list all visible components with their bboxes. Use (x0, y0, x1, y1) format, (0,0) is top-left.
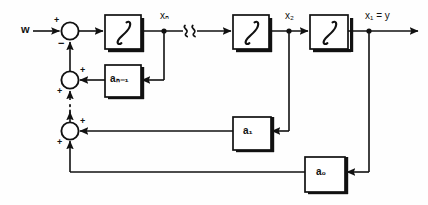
sign-sum3-plus-bottom: + (57, 138, 62, 147)
sign-sum2-plus-bottom: + (57, 87, 62, 96)
summing-junction-lower[interactable] (61, 122, 78, 139)
input-label-w: w (21, 24, 30, 35)
node-label-x2: x₂ (285, 11, 294, 21)
gain-label-a0: a₀ (316, 167, 326, 177)
diagram-vector-layer (0, 0, 428, 205)
gain-label-a1: a₁ (243, 126, 253, 136)
sign-sum1-minus: − (58, 38, 64, 49)
integrator-block-n[interactable] (105, 15, 141, 49)
integral-glyphs (118, 22, 337, 44)
sign-sum1-plus: + (54, 16, 59, 25)
output-label-x1-y: x₁ = y (365, 11, 390, 21)
block-diagram-canvas: w xₙ x₂ x₁ = y aₙ₋₁ a₁ a₀ + − + + + + (0, 0, 428, 205)
summing-junction-upper[interactable] (61, 71, 78, 88)
gain-label-an1: aₙ₋₁ (110, 74, 129, 84)
sign-sum3-plus-right: + (80, 117, 85, 126)
line-break-squiggle (184, 26, 195, 37)
node-label-xn: xₙ (160, 11, 169, 21)
integrator-block-2[interactable] (233, 15, 269, 49)
integrator-block-1[interactable] (310, 15, 348, 49)
sign-sum2-plus-right: + (80, 66, 85, 75)
